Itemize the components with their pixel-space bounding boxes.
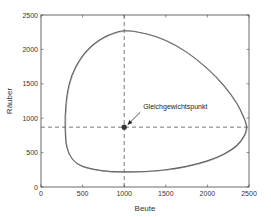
x-tick-label: 2500 xyxy=(241,190,257,197)
y-tick-label: 1000 xyxy=(22,115,38,122)
phase-portrait-chart: 05001000150020002500 0500100015002000250… xyxy=(0,0,271,217)
y-tick-label: 2500 xyxy=(22,12,38,19)
x-tick-label: 500 xyxy=(77,190,89,197)
y-axis-label: Räuber xyxy=(5,88,14,115)
equilibrium-marker xyxy=(122,125,127,130)
y-tick-label: 2000 xyxy=(22,46,38,53)
annotation-label: Gleichgewichtspunkt xyxy=(143,103,207,111)
y-tick-label: 500 xyxy=(26,149,38,156)
x-axis-label: Beute xyxy=(135,204,156,213)
x-tick-label: 0 xyxy=(39,190,43,197)
x-tick-label: 1500 xyxy=(158,190,174,197)
y-tick-label: 1500 xyxy=(22,80,38,87)
x-tick-label: 1000 xyxy=(116,190,132,197)
equilibrium-point xyxy=(122,125,127,130)
y-tick-label: 0 xyxy=(34,184,38,191)
x-tick-label: 2000 xyxy=(200,190,216,197)
